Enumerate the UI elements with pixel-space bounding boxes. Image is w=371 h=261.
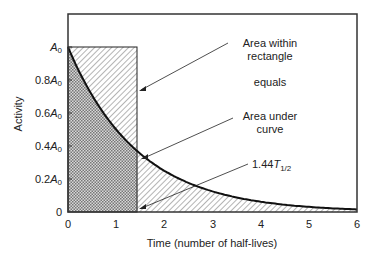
svg-text:6: 6 xyxy=(354,218,360,230)
svg-text:4: 4 xyxy=(258,218,264,230)
svg-text:curve: curve xyxy=(257,123,284,135)
y-axis-label: Activity xyxy=(12,96,24,131)
y-tick-a0: A0 xyxy=(49,41,62,55)
svg-text:0: 0 xyxy=(65,218,71,230)
svg-text:3: 3 xyxy=(210,218,216,230)
annotation-area-within: Area within xyxy=(243,37,297,49)
svg-text:1: 1 xyxy=(113,218,119,230)
y-tick-08: 0.8A0 xyxy=(35,74,63,88)
x-axis: 0 1 2 3 4 5 6 xyxy=(65,218,360,230)
svg-text:2: 2 xyxy=(161,218,167,230)
annotation-1-44-half-life: 1.44T1/2 xyxy=(252,158,292,173)
y-tick-04: 0.4A0 xyxy=(35,140,63,154)
annotation-equals: equals xyxy=(254,76,287,88)
y-tick-02: 0.2A0 xyxy=(35,173,63,187)
svg-text:5: 5 xyxy=(306,218,312,230)
decay-chart: 0 0.2A0 0.4A0 0.6A0 0.8A0 A0 0 1 2 3 4 5… xyxy=(0,0,371,261)
svg-text:rectangle: rectangle xyxy=(247,50,292,62)
annotation-area-under: Area under xyxy=(243,110,298,122)
y-tick-0: 0 xyxy=(56,206,62,218)
y-tick-06: 0.6A0 xyxy=(35,107,63,121)
x-axis-label: Time (number of half-lives) xyxy=(147,237,277,249)
y-axis: 0 0.2A0 0.4A0 0.6A0 0.8A0 A0 xyxy=(35,41,72,218)
